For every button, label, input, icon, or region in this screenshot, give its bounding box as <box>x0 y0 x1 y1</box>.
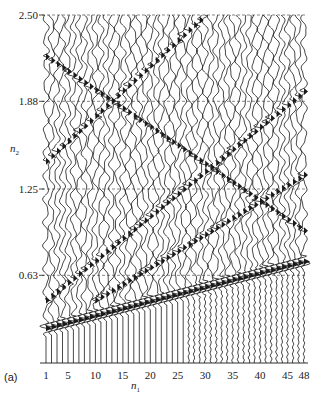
event-peak <box>84 122 88 129</box>
x-axis-label-sub: 1 <box>137 386 141 394</box>
event-peak <box>288 216 292 223</box>
event-peak <box>178 247 182 254</box>
x-tick-label: 48 <box>294 369 314 381</box>
wiggle-trace-plot <box>0 0 327 394</box>
event-peak <box>183 186 187 193</box>
event-peak <box>304 227 308 234</box>
event-peak <box>255 201 259 208</box>
event-peak <box>172 195 176 202</box>
event-peak <box>101 294 105 301</box>
event-peak <box>200 17 204 24</box>
y-axis-label-sub: 2 <box>16 149 20 157</box>
event-peak <box>46 53 50 60</box>
x-tick-label: 35 <box>223 369 243 381</box>
event-peak <box>101 107 105 114</box>
x-tick-label: 1 <box>36 369 56 381</box>
event-peak <box>128 82 132 89</box>
event-peak <box>150 62 154 69</box>
panel-label: (a) <box>4 371 17 383</box>
event-peak <box>73 275 77 282</box>
event-peak <box>249 190 253 197</box>
event-peak <box>167 254 171 261</box>
y-axis-label: n2 <box>10 142 19 157</box>
event-peak <box>84 79 88 86</box>
event-peak <box>244 187 248 194</box>
event-peak <box>117 92 121 99</box>
event-peak <box>68 68 72 75</box>
event-peak <box>233 146 237 153</box>
event-peak <box>271 115 275 122</box>
x-tick-label: 15 <box>113 369 133 381</box>
event-peak <box>222 221 226 228</box>
event-peak <box>200 172 204 179</box>
event-peak <box>134 77 138 84</box>
event-peak <box>255 128 259 135</box>
event-peak <box>304 88 308 95</box>
wiggle-trace <box>265 15 278 363</box>
event-peak <box>216 159 220 166</box>
event-peak <box>172 251 176 258</box>
event-peak <box>304 172 308 179</box>
event-peak <box>128 109 132 116</box>
x-tick-label: 30 <box>195 369 215 381</box>
event-peak <box>200 234 204 241</box>
x-tick-label: 20 <box>140 369 160 381</box>
event-peak <box>106 290 110 297</box>
event-peak <box>167 47 171 54</box>
event-peak <box>194 238 198 245</box>
event-peak <box>189 181 193 188</box>
y-tick-label: 1.25 <box>2 183 38 195</box>
x-tick-label: 25 <box>168 369 188 381</box>
x-tick-label: 10 <box>85 369 105 381</box>
y-tick-label: 1.88 <box>2 95 38 107</box>
event-peak <box>271 205 275 212</box>
y-tick-label: 0.63 <box>2 269 38 281</box>
event-peak <box>90 83 94 90</box>
event-peak <box>227 218 231 225</box>
event-peak <box>84 266 88 273</box>
event-peak <box>288 101 292 108</box>
event-peak <box>101 252 105 259</box>
event-peak <box>266 119 270 126</box>
event-peak <box>304 258 310 264</box>
event-peak <box>266 195 270 202</box>
event-peak <box>282 106 286 113</box>
x-tick-label: 40 <box>250 369 270 381</box>
event-peak <box>95 297 99 304</box>
x-tick-label: 5 <box>58 369 78 381</box>
event-peak <box>183 32 187 39</box>
event-peak <box>150 212 154 219</box>
x-axis-label: n1 <box>131 379 140 394</box>
seismic-figure: 2.501.881.250.63 15101520253035404548 n2… <box>0 0 327 394</box>
y-tick-label: 2.50 <box>2 9 38 21</box>
event-peak <box>183 244 187 251</box>
event-peak <box>293 220 297 227</box>
event-peak <box>211 228 215 235</box>
event-peak <box>51 57 55 64</box>
event-peak <box>150 264 154 271</box>
